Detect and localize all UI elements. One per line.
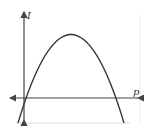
parabola-curve	[18, 35, 124, 124]
parabola-chart: I p	[0, 0, 147, 132]
x-axis-label: p	[133, 86, 140, 97]
y-axis-label: I	[26, 10, 32, 21]
